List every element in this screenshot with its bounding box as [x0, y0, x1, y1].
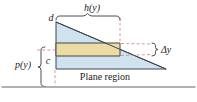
label-p-of-y: p(y)	[14, 59, 32, 71]
label-plane-region: Plane region	[80, 71, 130, 82]
label-d: d	[49, 12, 55, 23]
label-c: c	[46, 55, 51, 66]
h-brace	[56, 14, 120, 21]
delta-y-brace	[152, 43, 158, 56]
dashed-line-strip-top	[121, 44, 151, 45]
p-brace	[38, 47, 45, 87]
plane-region-figure: h(y) d c p(y) Δy Plane region	[0, 0, 197, 102]
label-h-of-y: h(y)	[84, 2, 101, 14]
figure-svg: h(y) d c p(y) Δy Plane region	[0, 0, 197, 102]
label-delta-y: Δy	[160, 44, 172, 55]
